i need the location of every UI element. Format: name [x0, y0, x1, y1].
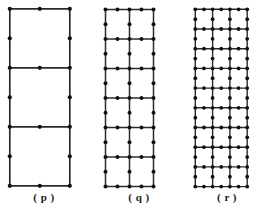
- lattice-node: [103, 184, 107, 188]
- lattice-node: [127, 184, 131, 188]
- figure-caption-p: ( p ): [0, 191, 88, 203]
- lattice-node: [219, 165, 223, 169]
- lattice-node: [210, 135, 214, 139]
- lattice-node: [151, 81, 155, 85]
- lattice-grid-p: [5, 4, 75, 191]
- lattice-node: [228, 17, 232, 21]
- figure-caption-r: ( r ): [185, 191, 269, 203]
- lattice-node: [193, 76, 197, 80]
- lattice-node: [193, 66, 197, 70]
- lattice-figure-q: [101, 5, 158, 191]
- lattice-grid-r: [191, 5, 252, 191]
- lattice-node: [8, 184, 12, 188]
- lattice-node: [219, 86, 223, 90]
- lattice-node: [8, 66, 12, 70]
- lattice-node: [127, 22, 131, 26]
- lattice-node: [68, 154, 72, 158]
- lattice-node: [245, 106, 249, 110]
- lattice-node: [202, 184, 206, 188]
- lattice-node: [228, 66, 232, 70]
- lattice-node: [103, 37, 107, 41]
- lattice-node: [115, 66, 119, 70]
- lattice-node: [127, 140, 131, 144]
- lattice-node: [236, 184, 240, 188]
- lattice-node: [236, 106, 240, 110]
- lattice-node: [127, 96, 131, 100]
- lattice-node: [236, 66, 240, 70]
- lattice-node: [103, 96, 107, 100]
- lattice-node: [8, 125, 12, 129]
- lattice-node: [115, 96, 119, 100]
- lattice-node: [127, 155, 131, 159]
- lattice-node: [193, 46, 197, 50]
- lattice-node: [210, 165, 214, 169]
- lattice-node: [245, 145, 249, 149]
- lattice-node: [193, 175, 197, 179]
- lattice-node: [151, 169, 155, 173]
- lattice-node: [151, 155, 155, 159]
- lattice-node: [68, 66, 72, 70]
- lattice-node: [245, 46, 249, 50]
- lattice-node: [228, 175, 232, 179]
- lattice-node: [193, 184, 197, 188]
- lattice-node: [127, 110, 131, 114]
- lattice-node: [115, 37, 119, 41]
- lattice-node: [228, 184, 232, 188]
- lattice-node: [127, 51, 131, 55]
- lattice-node: [210, 125, 214, 129]
- lattice-node: [228, 96, 232, 100]
- lattice-node: [193, 115, 197, 119]
- lattice-node: [219, 7, 223, 11]
- lattice-node: [210, 7, 214, 11]
- lattice-node: [151, 110, 155, 114]
- lattice-node: [193, 86, 197, 90]
- lattice-node: [202, 125, 206, 129]
- lattice-node: [193, 37, 197, 41]
- lattice-node: [103, 81, 107, 85]
- lattice-node: [219, 125, 223, 129]
- lattice-node: [228, 27, 232, 31]
- lattice-node: [103, 51, 107, 55]
- lattice-node: [151, 7, 155, 11]
- lattice-figure-plate: ( p )( q )( r ): [0, 0, 269, 212]
- lattice-node: [103, 125, 107, 129]
- lattice-node: [219, 46, 223, 50]
- lattice-node: [202, 165, 206, 169]
- lattice-node: [127, 7, 131, 11]
- lattice-node: [193, 145, 197, 149]
- lattice-node: [139, 155, 143, 159]
- lattice-node: [68, 7, 72, 11]
- lattice-node: [219, 27, 223, 31]
- lattice-node: [245, 96, 249, 100]
- lattice-node: [210, 96, 214, 100]
- lattice-node: [103, 66, 107, 70]
- lattice-figure-r: [191, 5, 252, 191]
- lattice-node: [210, 175, 214, 179]
- lattice-node: [236, 46, 240, 50]
- lattice-node: [68, 36, 72, 40]
- lattice-node: [139, 184, 143, 188]
- lattice-node: [8, 7, 12, 11]
- lattice-node: [68, 184, 72, 188]
- lattice-node: [103, 169, 107, 173]
- lattice-node: [245, 135, 249, 139]
- lattice-node: [228, 135, 232, 139]
- lattice-node: [127, 66, 131, 70]
- lattice-node: [193, 27, 197, 31]
- lattice-node: [103, 140, 107, 144]
- lattice-node: [103, 155, 107, 159]
- lattice-node: [68, 125, 72, 129]
- lattice-node: [210, 145, 214, 149]
- lattice-node: [228, 155, 232, 159]
- lattice-node: [228, 76, 232, 80]
- lattice-node: [210, 27, 214, 31]
- lattice-node: [228, 56, 232, 60]
- lattice-node: [228, 125, 232, 129]
- lattice-node: [245, 155, 249, 159]
- lattice-node: [151, 96, 155, 100]
- lattice-node: [38, 7, 42, 11]
- lattice-node: [245, 184, 249, 188]
- lattice-node: [202, 46, 206, 50]
- lattice-node: [139, 125, 143, 129]
- lattice-node: [245, 115, 249, 119]
